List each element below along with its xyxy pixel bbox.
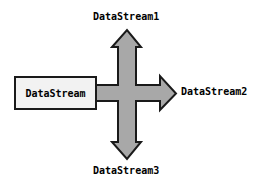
source-box-label: DataStream <box>15 77 96 109</box>
diagram-canvas: DataStream DataStream1 DataStream2 DataS… <box>0 0 259 193</box>
branch-label-stream3: DataStream3 <box>93 165 159 177</box>
cross-arrow-shape <box>96 30 176 159</box>
branch-label-stream2: DataStream2 <box>181 86 247 98</box>
branch-label-stream1: DataStream1 <box>93 11 159 23</box>
